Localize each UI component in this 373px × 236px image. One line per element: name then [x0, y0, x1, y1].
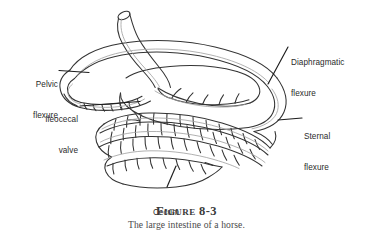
label-ileocecal-valve-line1: Ileocecal [8, 115, 78, 125]
figure-caption-text: The large intestine of a horse. [0, 219, 373, 231]
figure-number: Figure 8-3 [0, 204, 373, 218]
small-colon-stump [117, 10, 171, 88]
leader-cecum [167, 166, 176, 187]
great-colon-loop [70, 41, 286, 132]
leader-lines [59, 47, 302, 187]
label-sternal-flexure-line1: Sternal [304, 132, 370, 142]
label-ileocecal-valve: Ileocecal valve [8, 95, 78, 177]
label-sternal-flexure: Sternal flexure [304, 112, 370, 194]
label-ileocecal-valve-line2: valve [8, 146, 78, 156]
label-diaphragmatic-flexure-line1: Diaphragmatic [291, 58, 371, 68]
label-sternal-flexure-line2: flexure [304, 163, 370, 173]
figure-caption-block: Figure 8-3 The large intestine of a hors… [0, 204, 373, 231]
label-diaphragmatic-flexure-line2: flexure [291, 89, 371, 99]
figure-page: Pelvic flexure Ileocecal valve Diaphragm… [0, 0, 373, 236]
label-diaphragmatic-flexure: Diaphragmatic flexure [291, 38, 371, 120]
dorsal-colon-sacculations [158, 89, 249, 105]
leader-diaphragmatic-flexure [268, 47, 288, 84]
label-pelvic-flexure-line1: Pelvic [18, 80, 58, 90]
leader-pelvic-flexure [59, 71, 89, 73]
